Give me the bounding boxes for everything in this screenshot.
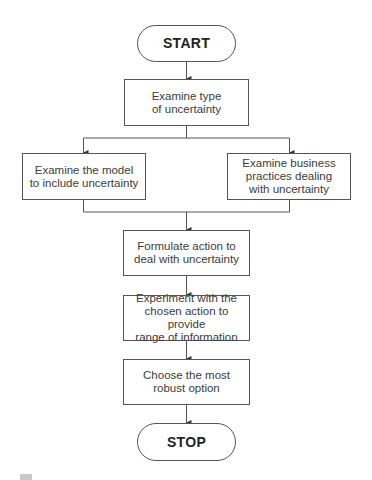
step-label: Formulate action to deal with uncertaint… [134, 240, 239, 266]
start-terminal: START [137, 25, 236, 62]
flowchart-canvas: START Examine type of uncertainty Examin… [0, 0, 372, 480]
step-label: Examine business practices dealing with … [242, 157, 335, 196]
stop-label: STOP [167, 436, 206, 449]
step-examine-type: Examine type of uncertainty [124, 79, 249, 126]
caption-marker [20, 474, 32, 480]
step-choose-robust: Choose the most robust option [123, 359, 250, 405]
step-label: Examine type of uncertainty [152, 90, 222, 116]
step-examine-business: Examine business practices dealing with … [227, 153, 351, 200]
step-experiment: Experiment with the chosen action to pro… [123, 295, 250, 341]
step-examine-model: Examine the model to include uncertainty [22, 153, 146, 200]
step-label: Choose the most robust option [143, 369, 230, 395]
stop-terminal: STOP [137, 423, 236, 461]
start-label: START [163, 37, 210, 50]
step-formulate-action: Formulate action to deal with uncertaint… [123, 230, 250, 276]
step-label: Experiment with the chosen action to pro… [128, 292, 245, 344]
step-label: Examine the model to include uncertainty [30, 164, 139, 190]
